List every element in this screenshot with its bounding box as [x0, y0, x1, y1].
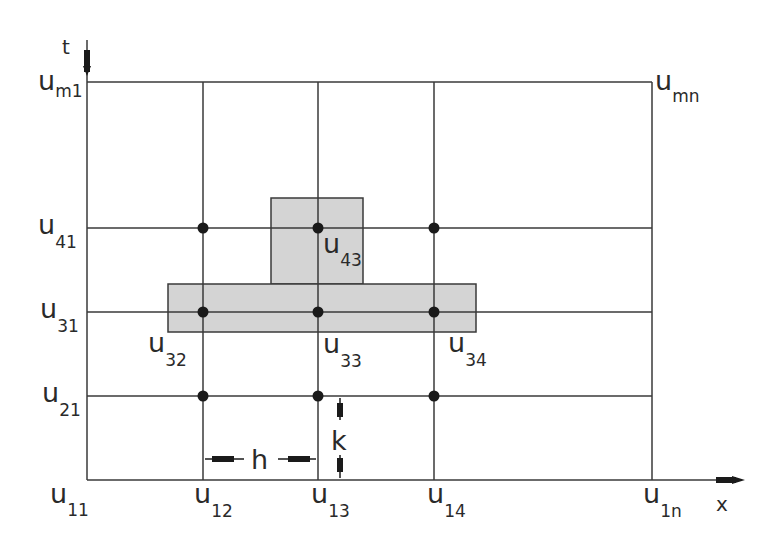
label-u-m1: um1: [38, 65, 83, 101]
label-u-1n: u1n: [643, 478, 682, 521]
label-u-33: u33: [323, 328, 362, 371]
stencil-upper-box: [271, 198, 363, 284]
label-u-41: u41: [38, 209, 77, 252]
axes: t x: [62, 35, 745, 516]
stencil-lower-box: [168, 284, 476, 332]
h-arrow-left-icon: [212, 456, 234, 462]
node-u33: [313, 307, 324, 318]
label-u-12: u12: [194, 478, 233, 521]
label-u-14: u14: [427, 478, 466, 521]
k-arrow-top-icon: [337, 403, 343, 417]
node-u22: [198, 391, 209, 402]
finite-difference-grid-diagram: t x h k um1 umn u41 u31 u21 u11 u: [0, 0, 781, 543]
node-u23: [313, 391, 324, 402]
node-u42: [198, 223, 209, 234]
node-u34: [429, 307, 440, 318]
h-label: h: [251, 444, 268, 475]
node-u32: [198, 307, 209, 318]
label-u-21: u21: [42, 377, 81, 420]
h-spacing-indicator: h: [205, 444, 316, 475]
h-arrow-right-icon: [288, 456, 310, 462]
k-arrow-bottom-icon: [337, 458, 343, 472]
x-axis-label: x: [716, 492, 728, 516]
label-u-32: u32: [148, 327, 187, 370]
node-u44: [429, 223, 440, 234]
node-u43: [313, 223, 324, 234]
label-u-13: u13: [311, 478, 350, 521]
label-u-11: u11: [50, 478, 89, 520]
label-u-31: u31: [40, 293, 79, 336]
label-u-34: u34: [448, 327, 487, 370]
t-axis-label: t: [62, 35, 70, 59]
k-spacing-indicator: k: [331, 398, 347, 478]
grid: [87, 82, 652, 480]
k-label: k: [331, 425, 347, 456]
x-axis-arrow-head-icon: [732, 476, 745, 484]
node-u24: [429, 391, 440, 402]
label-u-mn: umn: [655, 65, 699, 106]
